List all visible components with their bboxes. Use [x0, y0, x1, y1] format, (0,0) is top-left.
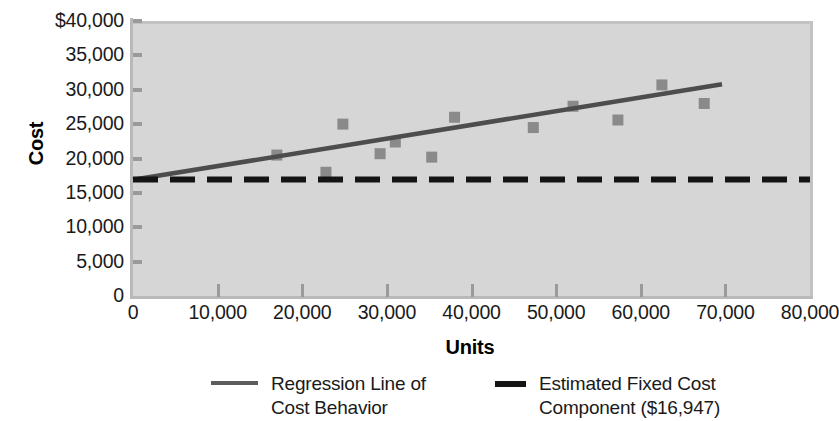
- legend-swatch-regression-line: [211, 381, 258, 385]
- x-axis-tick-label: 40,000: [442, 303, 500, 323]
- x-axis-tick-label: 10,000: [188, 303, 246, 323]
- data-point-marker: [337, 119, 348, 130]
- y-axis-tick-label: 35,000: [66, 45, 124, 65]
- legend-label-regression-line: Regression Line of Cost Behavior: [271, 372, 426, 420]
- y-axis-tick-label: $40,000: [55, 11, 124, 31]
- x-axis-tick-label: 70,000: [696, 303, 754, 323]
- chart-legend: Regression Line of Cost Behavior Estimat…: [0, 372, 839, 421]
- x-axis-tick-label: 20,000: [273, 303, 331, 323]
- legend-item-regression-line: Regression Line of Cost Behavior: [211, 372, 426, 420]
- legend-swatch-fixed-cost: [495, 381, 526, 387]
- data-point-marker: [528, 122, 539, 133]
- y-axis-tick-label: 20,000: [66, 149, 124, 169]
- x-axis-tick-label: 30,000: [358, 303, 416, 323]
- y-axis-tick-label: 10,000: [66, 217, 124, 237]
- data-point-marker: [375, 148, 386, 159]
- data-point-marker: [612, 115, 623, 126]
- y-axis-tick-label: 15,000: [66, 183, 124, 203]
- x-axis-tick-label: 80,000: [781, 303, 839, 323]
- data-point-marker: [449, 112, 460, 123]
- y-axis-tick-label: 5,000: [76, 252, 124, 272]
- chart-data-layer: [133, 21, 810, 296]
- data-point-marker: [656, 79, 667, 90]
- data-point-marker: [699, 98, 710, 109]
- data-point-marker: [320, 167, 331, 178]
- cost-behavior-scatter-chart: 05,00010,00015,00020,00025,00030,00035,0…: [0, 0, 839, 421]
- y-axis-tick-label: 0: [113, 286, 124, 306]
- y-axis-tick-label: 25,000: [66, 114, 124, 134]
- regression-line: [133, 84, 722, 180]
- y-axis-title: Cost: [25, 104, 48, 184]
- y-axis-tick-label: 30,000: [66, 80, 124, 100]
- x-axis-title: Units: [420, 336, 520, 359]
- legend-label-fixed-cost: Estimated Fixed Cost Component ($16,947): [539, 372, 720, 420]
- data-point-marker: [426, 152, 437, 163]
- x-axis-tick-label: 50,000: [527, 303, 585, 323]
- x-axis-tick-label: 60,000: [612, 303, 670, 323]
- x-axis-tick-label: 0: [128, 303, 139, 323]
- legend-item-fixed-cost: Estimated Fixed Cost Component ($16,947): [495, 372, 720, 420]
